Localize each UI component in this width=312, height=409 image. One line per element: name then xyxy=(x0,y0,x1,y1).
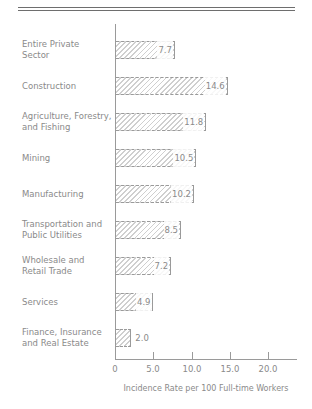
category-label: Construction xyxy=(22,81,114,92)
bar-value-label: 2.0 xyxy=(134,329,150,347)
category-label-line: and Fishing xyxy=(22,122,114,133)
category-label-line: Finance, Insurance xyxy=(22,327,114,338)
category-label: Entire PrivateSector xyxy=(22,39,114,61)
category-label: Services xyxy=(22,297,114,308)
top-rule-1 xyxy=(18,7,295,8)
category-label-line: Services xyxy=(22,297,114,308)
x-tick-mark xyxy=(192,352,193,359)
category-label-line: Wholesale and xyxy=(22,255,114,266)
x-tick-label: 5.0 xyxy=(146,364,160,374)
category-label-line: and Real Estate xyxy=(22,338,114,349)
category-label: Agriculture, Forestry,and Fishing xyxy=(22,111,114,133)
bar-value-label: 10.2 xyxy=(171,185,192,203)
category-label: Transportation andPublic Utilities xyxy=(22,219,114,241)
category-label: Finance, Insuranceand Real Estate xyxy=(22,327,114,349)
bar-value-label: 8.5 xyxy=(164,221,180,239)
bar-value-label: 4.9 xyxy=(136,293,152,311)
category-label-line: Public Utilities xyxy=(22,230,114,241)
category-label-line: Entire Private xyxy=(22,39,114,50)
x-tick-label: 0 xyxy=(112,364,117,374)
x-tick-mark xyxy=(153,352,154,359)
x-tick-label: 10.0 xyxy=(183,364,202,374)
x-tick-label: 15.0 xyxy=(221,364,240,374)
category-label: Manufacturing xyxy=(22,189,114,200)
bar-value-label: 10.5 xyxy=(173,149,194,167)
bar-value-label: 11.8 xyxy=(183,113,204,131)
category-label-line: Sector xyxy=(22,50,114,61)
bar xyxy=(116,329,131,347)
bar-value-label: 7.7 xyxy=(157,41,173,59)
category-label: Wholesale andRetail Trade xyxy=(22,255,114,277)
x-axis-title-text: Incidence Rate per 100 Full-time Workers xyxy=(123,384,288,393)
bar-value-label: 14.6 xyxy=(205,77,226,95)
category-label-line: Manufacturing xyxy=(22,189,114,200)
top-rule-2 xyxy=(18,10,295,11)
category-label-line: Mining xyxy=(22,153,114,164)
category-label-line: Agriculture, Forestry, xyxy=(22,111,114,122)
category-label-line: Transportation and xyxy=(22,219,114,230)
x-tick-mark xyxy=(268,352,269,359)
category-label-line: Retail Trade xyxy=(22,266,114,277)
x-tick-mark xyxy=(230,352,231,359)
category-label-line: Construction xyxy=(22,81,114,92)
category-label: Mining xyxy=(22,153,114,164)
x-axis-line xyxy=(115,359,297,360)
bar-value-label: 7.2 xyxy=(154,257,170,275)
x-tick-label: 20.0 xyxy=(259,364,278,374)
